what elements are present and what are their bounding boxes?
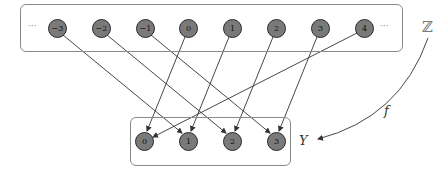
codomain-set-label: Y [299,133,308,148]
domain-node-1: 1 [223,19,242,38]
domain-node-2: 2 [267,19,286,38]
domain-set-box [20,4,403,52]
domain-node-neg2: −2 [92,19,111,38]
domain-node-neg3: −3 [48,19,67,38]
function-label: f [384,103,389,118]
ellipsis-right: ··· [380,21,389,31]
domain-node-0: 0 [179,19,198,38]
domain-node-3: 3 [311,19,330,38]
codomain-node-0: 0 [135,132,154,151]
function-f-arrow [318,38,428,139]
domain-node-neg1: −1 [136,19,155,38]
domain-node-4: 4 [355,19,374,38]
codomain-node-3: 3 [267,132,286,151]
ellipsis-left: ··· [28,21,37,31]
integers-set-label: ℤ [422,18,433,36]
codomain-node-2: 2 [223,132,242,151]
codomain-node-1: 1 [179,132,198,151]
diagram-canvas: ··· −3 −2 −1 0 1 2 3 4 ··· ℤ 0 1 2 3 Y f [0,0,440,174]
